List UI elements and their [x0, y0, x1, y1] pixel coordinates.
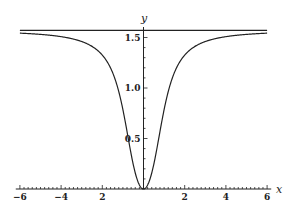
chart: −6−422460.51.01.5 x y [0, 0, 294, 209]
y-tick-label: 1.0 [125, 83, 141, 93]
x-tick-label: 2 [99, 192, 105, 202]
y-axis-label: y [140, 12, 148, 25]
x-tick-label: 4 [223, 192, 229, 202]
x-axis-label: x [276, 183, 283, 196]
axes: −6−422460.51.01.5 [13, 27, 271, 202]
x-tick-label: 6 [264, 192, 270, 202]
x-tick-label: 2 [182, 192, 188, 202]
x-tick-label: −6 [13, 192, 27, 202]
x-tick-label: −4 [54, 192, 68, 202]
y-tick-label: 1.5 [125, 33, 141, 43]
